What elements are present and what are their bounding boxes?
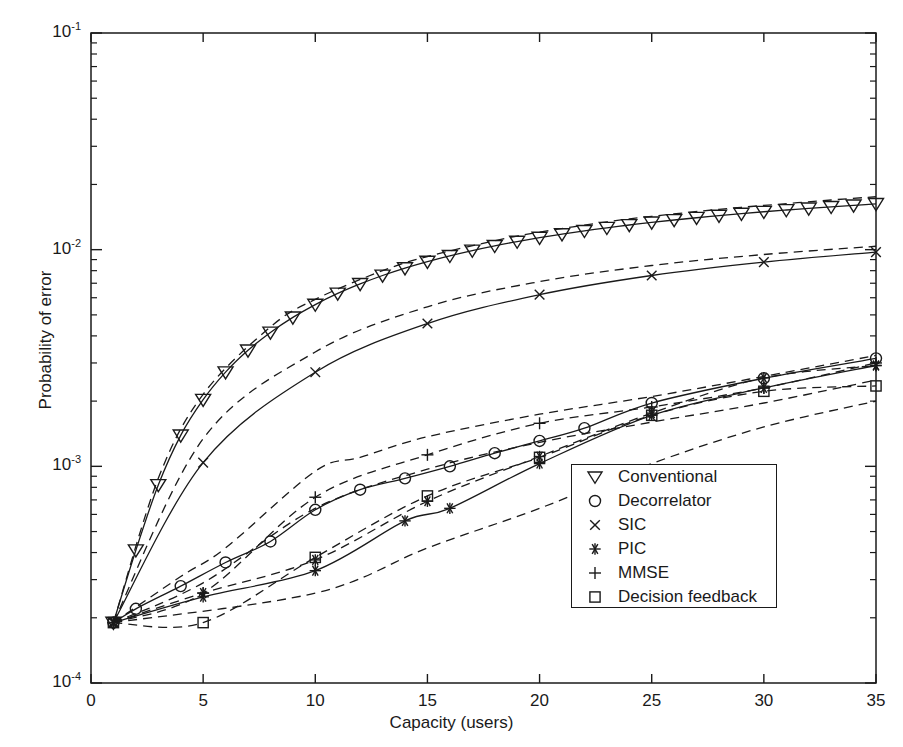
y-tick-label: 10-4	[11, 670, 81, 692]
y-tick-label: 10-2	[11, 237, 81, 259]
circle-icon	[572, 489, 618, 513]
y-tick-label: 10-3	[11, 453, 81, 475]
x-tick-label: 15	[407, 691, 447, 711]
legend-item-label: Conventional	[618, 467, 717, 487]
x-tick-label: 30	[744, 691, 784, 711]
legend-item-label: Decision feedback	[618, 587, 757, 607]
legend-item: Conventional	[572, 465, 776, 489]
plus-icon	[572, 561, 618, 585]
asterisk-icon	[572, 537, 618, 561]
chart-figure: Probability of error Capacity (users) 05…	[0, 0, 903, 747]
triangle-down-icon	[572, 465, 618, 489]
x-tick-label: 0	[71, 691, 111, 711]
square-icon	[572, 585, 618, 609]
x-tick-label: 20	[520, 691, 560, 711]
x-tick-label: 5	[183, 691, 223, 711]
legend-item: Decision feedback	[572, 585, 776, 609]
legend-item-label: Decorrelator	[618, 491, 712, 511]
x-icon	[572, 513, 618, 537]
x-tick-label: 10	[295, 691, 335, 711]
legend-item: Decorrelator	[572, 489, 776, 513]
legend-item-label: PIC	[618, 539, 646, 559]
plot-area	[0, 0, 903, 747]
legend-item-label: MMSE	[618, 563, 669, 583]
chart-legend: ConventionalDecorrelatorSICPICMMSEDecisi…	[571, 464, 777, 608]
legend-item: PIC	[572, 537, 776, 561]
legend-item: SIC	[572, 513, 776, 537]
legend-item: MMSE	[572, 561, 776, 585]
y-axis-label: Probability of error	[36, 250, 56, 430]
legend-item-label: SIC	[618, 515, 646, 535]
x-tick-label: 35	[856, 691, 896, 711]
x-tick-label: 25	[632, 691, 672, 711]
x-axis-label: Capacity (users)	[0, 713, 903, 733]
y-tick-label: 10-1	[11, 20, 81, 42]
